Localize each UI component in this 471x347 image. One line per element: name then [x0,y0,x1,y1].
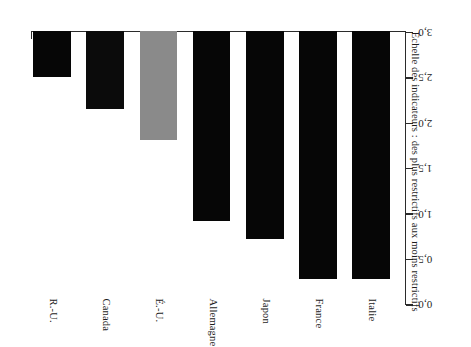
value-axis-tick-label: 0,5 [418,254,453,265]
bar-france [299,31,337,279]
bar-italie [353,31,391,279]
baseline-end-tick [31,32,32,39]
category-label-canada: Canada [100,299,111,332]
value-axis-tick-label: 2,5 [418,72,453,83]
bar-canada [87,31,125,108]
category-label-allemagne: Allemagne [207,299,218,347]
value-axis-tick-label: 2,0 [418,118,453,129]
bar-allemagne [193,31,231,221]
value-axis-tick-label: 0,0 [418,300,453,311]
category-label-u: É.-U. [153,299,164,323]
category-label-japon: Japon [260,299,271,325]
bar-japon [246,31,284,239]
category-label-italie: Italie [366,299,377,322]
value-axis-tick-label: 1,5 [418,163,453,174]
value-axis-title: Échelle des indicateurs : des plus restr… [410,22,421,322]
bar-u [140,31,178,140]
category-label-france: France [313,299,324,329]
bar-r-u [33,31,71,76]
value-axis-tick-label: 1,0 [418,209,453,220]
category-label-r-u: R.-U. [47,299,58,323]
value-axis-tick-label: 3,0 [418,27,453,38]
